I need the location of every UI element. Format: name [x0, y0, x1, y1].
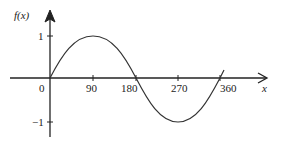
x-tick-label-180: 180 — [121, 82, 138, 94]
origin-label: 0 — [39, 82, 45, 94]
sine-chart: f(x) 1 −1 0 90 180 270 360 x — [0, 0, 287, 143]
y-axis-label: f(x) — [14, 9, 30, 22]
x-tick-label-360: 360 — [220, 82, 237, 94]
y-tick-label-neg1: −1 — [32, 116, 44, 128]
x-tick-label-90: 90 — [86, 82, 98, 94]
x-axis-label: x — [261, 82, 267, 94]
sine-curve — [50, 36, 224, 122]
x-tick-label-270: 270 — [171, 82, 188, 94]
y-tick-label-1: 1 — [38, 30, 44, 42]
